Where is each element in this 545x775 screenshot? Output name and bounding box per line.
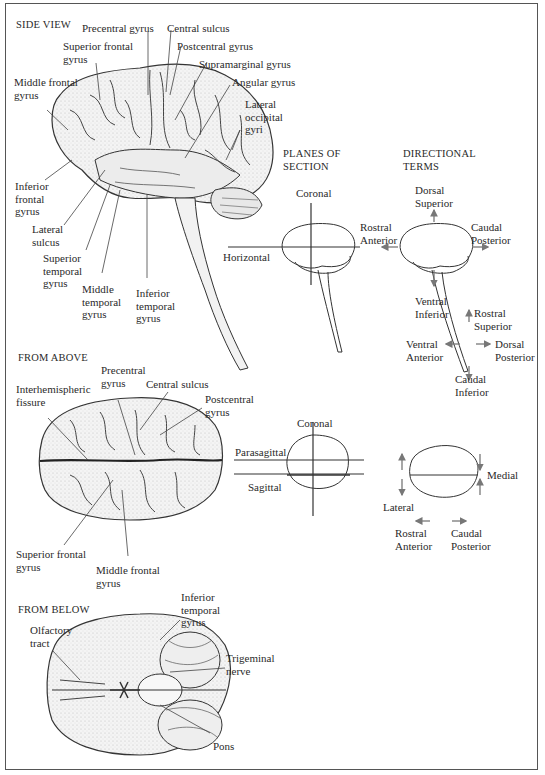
label-superior-frontal-gyrus: Superior frontal gyrus (63, 40, 133, 65)
label-postcentral-gyrus-above: Postcentral gyrus (205, 393, 254, 418)
label-interhemispheric-fissure: Interhemispheric fissure (16, 383, 91, 408)
label-caudal-inferior: Caudal Inferior (455, 373, 489, 398)
label-rostral-anterior-above: Rostral Anterior (395, 527, 432, 552)
label-caudal-posterior: Caudal Posterior (471, 221, 511, 246)
label-sagittal: Sagittal (248, 481, 282, 494)
directional-above-diagram (410, 446, 478, 498)
label-coronal: Coronal (296, 187, 331, 200)
label-lateral: Lateral (383, 501, 414, 514)
label-inferior-frontal-gyrus: Inferior frontal gyrus (15, 180, 49, 218)
label-ventral-inferior: Ventral Inferior (415, 295, 449, 320)
label-lateral-occipital-gyri: Lateral occipital gyri (245, 98, 283, 136)
label-middle-frontal-gyrus: Middle frontal gyrus (14, 76, 78, 101)
label-trigeminal-nerve: Trigeminal nerve (226, 652, 275, 677)
planes-side-diagram (228, 203, 360, 352)
label-middle-temporal-gyrus: Middle temporal gyrus (82, 283, 121, 321)
label-precentral-gyrus: Precentral gyrus (82, 22, 154, 35)
label-inferior-temporal-gyrus-below: Inferior temporal gyrus (181, 591, 220, 629)
label-pons: Pons (213, 740, 234, 753)
from-above-brain-illustration (39, 398, 222, 520)
directional-terms-heading: DIRECTIONAL TERMS (403, 148, 476, 173)
label-rostral-anterior: Rostral Anterior (360, 221, 397, 246)
label-dorsal-superior: Dorsal Superior (415, 184, 453, 209)
label-angular-gyrus: Angular gyrus (232, 76, 295, 89)
label-olfactory-tract: Olfactory tract (30, 624, 72, 649)
label-caudal-posterior-above: Caudal Posterior (451, 527, 491, 552)
label-central-sulcus: Central sulcus (167, 22, 230, 35)
label-rostral-superior: Rostral Superior (474, 307, 512, 332)
from-above-heading: FROM ABOVE (18, 352, 88, 365)
side-view-heading: SIDE VIEW (16, 19, 71, 32)
label-ventral-anterior: Ventral Anterior (406, 338, 443, 363)
label-parasagittal: Parasagittal (235, 446, 286, 459)
label-central-sulcus-above: Central sulcus (146, 378, 209, 391)
planes-above-diagram (234, 422, 364, 516)
label-middle-frontal-gyrus-above: Middle frontal gyrus (96, 564, 160, 589)
label-superior-temporal-gyrus: Superior temporal gyrus (43, 252, 82, 290)
from-below-brain-illustration (47, 614, 230, 755)
label-horizontal: Horizontal (223, 251, 270, 264)
label-precentral-gyrus-above: Precentral gyrus (101, 364, 146, 389)
label-supramarginal-gyrus: Supramarginal gyrus (199, 58, 291, 71)
label-lateral-sulcus: Lateral sulcus (32, 223, 63, 248)
planes-of-section-heading: PLANES OF SECTION (283, 148, 341, 173)
label-coronal-above: Coronal (297, 417, 332, 430)
from-below-heading: FROM BELOW (18, 604, 90, 617)
label-dorsal-posterior: Dorsal Posterior (495, 338, 535, 363)
label-postcentral-gyrus: Postcentral gyrus (177, 40, 253, 53)
label-superior-frontal-gyrus-above: Superior frontal gyrus (16, 548, 86, 573)
label-inferior-temporal-gyrus: Inferior temporal gyrus (136, 287, 175, 325)
label-medial: Medial (487, 469, 518, 482)
